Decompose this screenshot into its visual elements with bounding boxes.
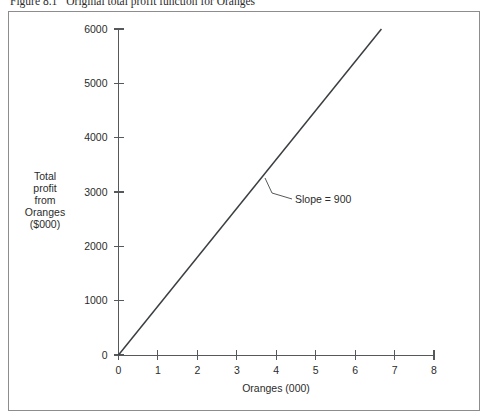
x-tick-label: 0 [116,364,122,376]
x-tick-label: 7 [392,364,398,376]
y-tick-label: 2000 [84,240,108,252]
slope-annotation-leader [265,178,292,199]
y-tick-label: 6000 [84,23,108,35]
x-tick-label: 4 [273,364,279,376]
y-tick-label: 4000 [84,131,108,143]
y-tick-label: 3000 [84,186,108,198]
x-tick-label: 3 [234,364,240,376]
x-tick-group: 012345678 [116,350,438,376]
y-tick-label: 5000 [84,77,108,89]
x-tick-label: 6 [352,364,358,376]
y-tick-label: 1000 [84,294,108,306]
x-tick-label: 8 [431,364,437,376]
profit-line-series [119,29,382,355]
y-tick-group: 0100020003000400050006000 [84,23,123,361]
y-axis-title-line-5: ($000) [30,218,60,230]
y-axis-title: Total profit from Oranges ($000) [25,170,65,230]
x-tick-label: 1 [155,364,161,376]
y-axis-title-line-4: Oranges [25,206,65,218]
y-axis-title-line-3: from [35,194,56,206]
y-axis-title-line-2: profit [33,182,56,194]
x-tick-label: 2 [194,364,200,376]
y-tick-label: 0 [102,349,108,361]
y-axis-title-line-1: Total [34,170,56,182]
slope-annotation-label: Slope = 900 [295,193,352,205]
x-tick-label: 5 [313,364,319,376]
x-axis-title: Oranges (000) [242,382,310,394]
